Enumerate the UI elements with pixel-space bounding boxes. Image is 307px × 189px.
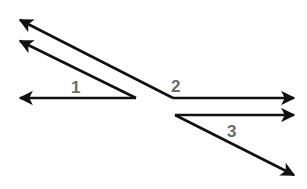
labels-group: 123 [71,77,236,141]
diagram-svg: 123 [0,0,307,189]
angle-diagram: 123 [0,0,307,189]
rays-group [20,20,294,175]
angle-2-label: 2 [171,77,180,96]
upper-left-ray-a-arrow [20,20,173,98]
angle-3-label: 3 [227,122,236,141]
angle-1-label: 1 [71,78,80,97]
